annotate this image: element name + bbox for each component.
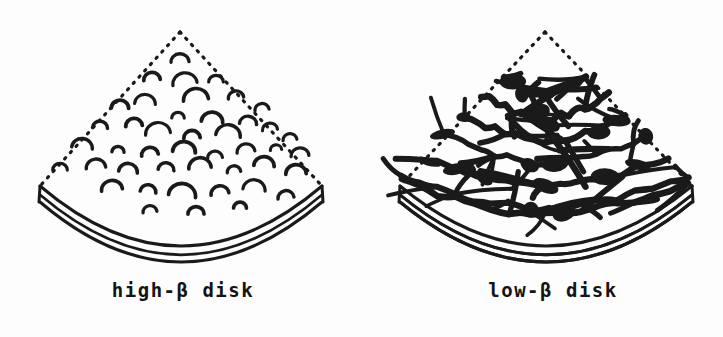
- figure-root: high-β disk low-β disk: [0, 0, 723, 337]
- field-strand: [396, 159, 422, 160]
- field-strand: [675, 166, 688, 178]
- field-strand: [480, 134, 505, 143]
- field-strand: [431, 98, 444, 134]
- field-strand: [539, 77, 585, 80]
- caption-low-beta-disk: low-β disk: [488, 279, 617, 301]
- field-strand: [634, 199, 656, 202]
- field-strand: [512, 114, 515, 137]
- low-beta-field-mesh: [383, 73, 689, 235]
- field-strand: [455, 189, 515, 194]
- field-strand: [635, 189, 653, 191]
- field-strand: [630, 144, 633, 159]
- field-strand: [609, 109, 625, 115]
- low-beta-geometry: [383, 32, 693, 262]
- field-strand: [560, 149, 609, 151]
- caption-high-beta-disk: high-β disk: [112, 279, 254, 301]
